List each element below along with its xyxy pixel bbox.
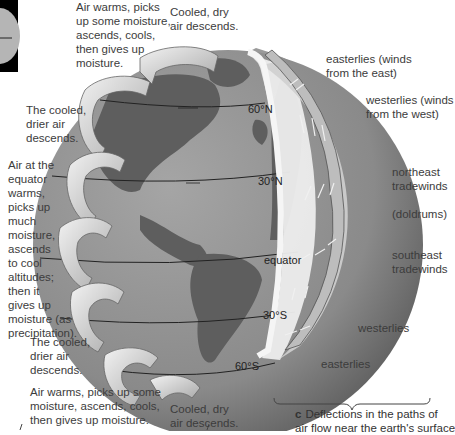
text-line: then gives up: [76, 42, 171, 56]
label-north-descend: The cooled, drier air descends.: [26, 103, 86, 145]
text-line: westerlies (winds: [366, 93, 454, 107]
label-polar-descend: Cooled, dry air descends.: [170, 5, 238, 33]
text-line: much: [8, 214, 77, 228]
text-line: air descends.: [170, 416, 238, 430]
latitude-60s: 60°S: [235, 360, 259, 372]
text-line: air descends.: [170, 19, 238, 33]
text-line: descends.: [30, 363, 90, 377]
latitude-30s: 30°S: [263, 309, 287, 321]
text-line: Air warms, picks up some: [30, 385, 161, 399]
text-line: The cooled,: [30, 335, 90, 349]
text-line: to cool: [8, 256, 77, 270]
text-line: gives up: [8, 298, 77, 312]
text-line: Cooled, dry: [170, 402, 238, 416]
wind-label-westerlies-north: westerlies (winds from the west): [366, 93, 454, 121]
text-line: descends.: [26, 131, 86, 145]
text-line: westerlies: [358, 321, 409, 335]
label-south-descend: The cooled, drier air descends.: [30, 335, 90, 377]
caption-line-2: air flow near the earth's surface: [295, 421, 455, 435]
wind-label-easterlies-south: easterlies: [321, 357, 370, 371]
caption-text: Deflections in the paths of: [305, 408, 437, 420]
latitude-30n: 30°N: [258, 175, 283, 187]
text-line: up some moisture,: [76, 14, 171, 28]
text-line: altitudes;: [8, 270, 77, 284]
label-south-polar-descend: Cooled, dry air descends.: [170, 402, 238, 430]
text-line: ascends: [8, 242, 77, 256]
text-line: then it: [8, 284, 77, 298]
text-line: then gives up moisture.: [30, 413, 161, 427]
text-line: from the west): [366, 107, 454, 121]
wind-label-westerlies-south: westerlies: [358, 321, 409, 335]
text-line: moisture.: [76, 56, 171, 70]
text-line: (doldrums): [392, 207, 447, 221]
figure-caption: cDeflections in the paths of air flow ne…: [295, 407, 455, 435]
text-line: northeast: [392, 165, 448, 179]
wind-label-doldrums: (doldrums): [392, 207, 447, 221]
wind-label-polar-easterlies: easterlies (winds from the east): [326, 52, 412, 80]
latitude-60n: 60°N: [248, 103, 273, 115]
text-line: Cooled, dry: [170, 5, 238, 19]
text-line: moisture,: [8, 228, 77, 242]
wind-label-northeast-tradewinds: northeast tradewinds: [392, 165, 448, 193]
text-line: moisture (as: [8, 312, 77, 326]
text-line: ascends, cools,: [76, 28, 171, 42]
text-line: drier air: [30, 349, 90, 363]
text-line: drier air: [26, 117, 86, 131]
caption-line-1: cDeflections in the paths of: [295, 407, 455, 421]
text-line: picks up: [8, 200, 77, 214]
text-line: tradewinds: [392, 179, 448, 193]
text-line: easterlies (winds: [326, 52, 412, 66]
text-line: southeast: [392, 248, 448, 262]
latitude-equator: equator: [264, 254, 301, 266]
text-line: tradewinds: [392, 262, 448, 276]
panel-letter: c: [295, 408, 301, 420]
text-line: from the east): [326, 66, 412, 80]
text-line: moisture, ascends, cools,: [30, 399, 161, 413]
text-line: Air warms, picks: [76, 0, 171, 14]
inset-globe-thumbnail: [0, 0, 20, 72]
label-polar-rise: Air warms, picks up some moisture, ascen…: [76, 0, 171, 70]
text-line: The cooled,: [26, 103, 86, 117]
label-south-polar-rise: Air warms, picks up some moisture, ascen…: [30, 385, 161, 427]
text-line: equator: [8, 172, 77, 186]
text-line: easterlies: [321, 357, 370, 371]
wind-label-southeast-tradewinds: southeast tradewinds: [392, 248, 448, 276]
text-line: warms,: [8, 186, 77, 200]
label-equator-rise: Air at the equator warms, picks up much …: [8, 158, 77, 340]
text-line: Air at the: [8, 158, 77, 172]
